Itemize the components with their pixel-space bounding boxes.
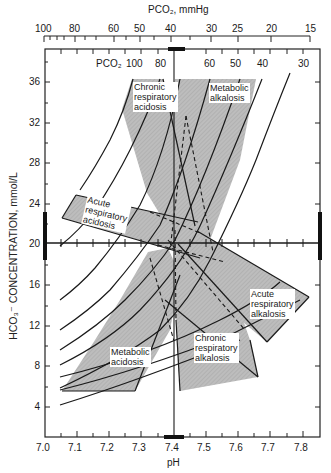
x-tick: 7.3 <box>132 442 146 453</box>
top-tick: 25 <box>232 23 243 34</box>
top-tick: 30 <box>206 23 217 34</box>
top-tick: 50 <box>134 23 145 34</box>
x-tick: 7.6 <box>229 442 243 453</box>
y-tick: 28 <box>29 157 40 168</box>
label-chronic-respiratory-alkalosis: Chronic respiratory alkalosis <box>194 333 239 363</box>
isobar-label: 30 <box>298 58 309 69</box>
top-tick: 40 <box>165 23 176 34</box>
y-tick: 24 <box>29 198 40 209</box>
x-tick: 7.2 <box>100 442 114 453</box>
label-acute-respiratory-alkalosis: Acute respiratory alkalosis <box>250 289 295 319</box>
y-tick: 12 <box>29 320 40 331</box>
label-chronic-respiratory-acidosis: Chronic respiratory acidosis <box>133 82 178 112</box>
x-tick: 7.7 <box>261 442 275 453</box>
top-tick: 15 <box>305 23 316 34</box>
isobar-label: 40 <box>257 58 268 69</box>
x-tick: 7.8 <box>294 442 308 453</box>
x-tick: 7.4 <box>165 442 179 453</box>
x-tick: 7.0 <box>36 442 50 453</box>
y-tick: 32 <box>29 117 40 128</box>
y-tick: 20 <box>29 238 40 249</box>
y-tick: 36 <box>29 76 40 87</box>
x-tick: 7.5 <box>197 442 211 453</box>
y-tick: 8 <box>34 360 40 371</box>
top-axis-tick-labels: 100 80 60 50 40 30 25 20 15 <box>0 23 331 35</box>
y-tick: 16 <box>29 279 40 290</box>
label-metabolic-acidosis: Metabolic acidosis <box>110 347 151 367</box>
top-pco2-axis <box>44 36 310 42</box>
inner-isobar-labels: PCO₂ 100 80 60 50 40 30 <box>0 58 331 70</box>
x-tick: 7.1 <box>68 442 82 453</box>
normal-pco2-bar <box>168 47 185 51</box>
shaded-regions <box>62 79 309 391</box>
nomogram-svg <box>0 0 331 473</box>
inner-pco2-label: PCO₂ <box>96 58 122 69</box>
isobar-label: 100 <box>126 58 143 69</box>
isobar-label: 50 <box>230 58 241 69</box>
top-tick: 80 <box>69 23 80 34</box>
normal-hco3-bar-right <box>318 212 322 260</box>
y-axis-title: HCO₃⁻ CONCENTRATION, mmol/L <box>7 171 19 341</box>
isobar-label: 80 <box>155 58 166 69</box>
x-axis-tick-labels: 7.0 7.1 7.2 7.3 7.4 7.5 7.6 7.7 7.8 <box>0 442 331 454</box>
y-tick: 4 <box>34 401 40 412</box>
label-metabolic-alkalosis: Metabolic alkalosis <box>209 83 250 103</box>
plot-area <box>45 49 320 437</box>
top-tick: 20 <box>266 23 277 34</box>
top-tick: 60 <box>108 23 119 34</box>
x-axis-title: pH <box>167 457 180 468</box>
normal-ph-bar <box>164 435 184 439</box>
top-axis-title: PCO₂, mmHg <box>148 4 209 15</box>
isobar-label: 60 <box>204 58 215 69</box>
acid-base-nomogram: PCO₂, mmHg 100 80 60 50 40 30 25 20 15 P… <box>0 0 331 473</box>
